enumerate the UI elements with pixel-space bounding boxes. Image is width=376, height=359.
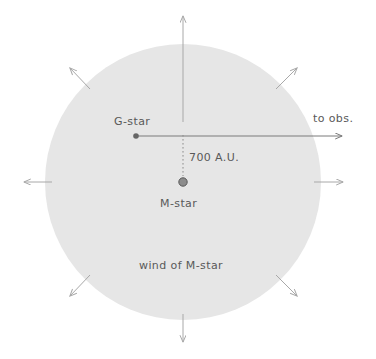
wind-arrow-northeast (276, 68, 297, 89)
wind-arrow-southeast (276, 275, 297, 296)
g-star-marker (133, 133, 139, 139)
wind-geometry-diagram: G-star to obs. 700 A.U. M-star wind of M… (0, 0, 376, 359)
wind-region-label: wind of M-star (139, 260, 223, 271)
diagram-canvas (0, 0, 376, 359)
to-observer-label: to obs. (313, 113, 353, 124)
g-star-label: G-star (114, 116, 150, 127)
m-star-marker (179, 178, 187, 186)
wind-arrow-southwest (70, 275, 90, 296)
m-star-label: M-star (160, 198, 197, 209)
wind-arrow-northwest (70, 68, 90, 89)
separation-distance-label: 700 A.U. (189, 152, 239, 163)
